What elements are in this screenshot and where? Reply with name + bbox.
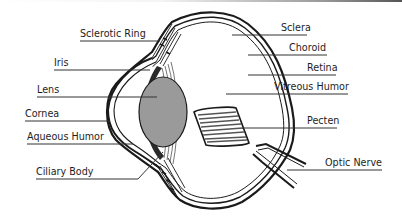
label-cornea: Cornea bbox=[25, 108, 110, 121]
svg-text:Cornea: Cornea bbox=[25, 108, 59, 119]
eye-diagram: Sclerotic Ring Iris Lens Cornea Aqueous … bbox=[0, 0, 402, 223]
svg-text:Optic Nerve: Optic Nerve bbox=[325, 157, 382, 168]
svg-text:Ciliary Body: Ciliary Body bbox=[36, 166, 94, 177]
svg-text:Pecten: Pecten bbox=[307, 115, 339, 126]
svg-text:Aqueous Humor: Aqueous Humor bbox=[27, 131, 104, 142]
label-optic-nerve: Optic Nerve bbox=[287, 157, 382, 170]
svg-text:Choroid: Choroid bbox=[289, 42, 326, 53]
svg-text:Sclerotic Ring: Sclerotic Ring bbox=[80, 28, 146, 39]
label-sclerotic-ring: Sclerotic Ring bbox=[80, 28, 160, 41]
lens-shape bbox=[139, 77, 187, 147]
svg-text:Lens: Lens bbox=[37, 84, 59, 95]
svg-text:Sclera: Sclera bbox=[281, 22, 311, 33]
svg-text:Iris: Iris bbox=[54, 57, 68, 68]
svg-text:Retina: Retina bbox=[307, 62, 338, 73]
svg-text:Vitreous Humor: Vitreous Humor bbox=[274, 81, 349, 92]
